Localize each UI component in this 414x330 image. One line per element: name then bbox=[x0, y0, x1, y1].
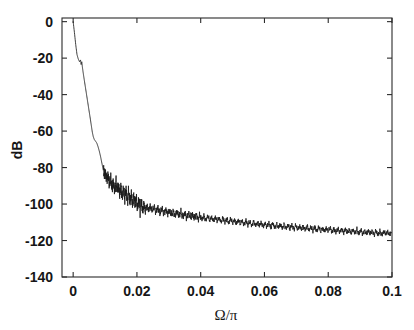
x-tick-label: 0.06 bbox=[251, 283, 278, 299]
x-tick-label: 0.08 bbox=[315, 283, 342, 299]
y-tick-label: -80 bbox=[33, 160, 53, 176]
y-tick-label: -20 bbox=[33, 50, 53, 66]
x-tick-label: 0.04 bbox=[187, 283, 214, 299]
frequency-response-chart: 00.020.040.060.080.10-20-40-60-80-100-12… bbox=[0, 0, 414, 330]
y-tick-label: -120 bbox=[25, 233, 53, 249]
y-tick-label: -40 bbox=[33, 87, 53, 103]
x-tick-label: 0 bbox=[69, 283, 77, 299]
x-tick-label: 0.02 bbox=[123, 283, 150, 299]
y-tick-label: -140 bbox=[25, 269, 53, 285]
y-tick-label: -60 bbox=[33, 123, 53, 139]
y-axis-title: dB bbox=[9, 141, 25, 160]
x-axis-title: Ω/π bbox=[215, 307, 238, 323]
y-tick-label: 0 bbox=[45, 14, 53, 30]
x-tick-label: 0.1 bbox=[382, 283, 402, 299]
y-tick-label: -100 bbox=[25, 196, 53, 212]
